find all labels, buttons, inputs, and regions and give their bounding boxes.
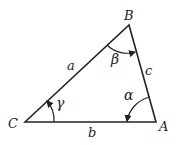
angle-label-gamma: γ xyxy=(56,95,65,111)
side-label-b: b xyxy=(88,125,96,140)
triangle-diagram: B C A a b c β γ α xyxy=(0,0,179,145)
angle-label-alpha: α xyxy=(124,87,134,103)
side-label-c: c xyxy=(145,63,153,78)
angle-label-beta: β xyxy=(110,51,119,67)
vertex-label-b: B xyxy=(123,8,134,23)
vertex-label-a: A xyxy=(158,119,168,134)
side-label-a: a xyxy=(67,58,75,73)
triangle-shape xyxy=(25,25,156,122)
angle-arc-gamma xyxy=(47,101,54,122)
vertex-label-c: C xyxy=(8,116,18,131)
